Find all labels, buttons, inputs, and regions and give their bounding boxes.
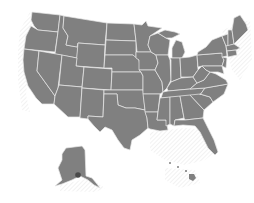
state-montana [63,16,107,47]
state-arizona [54,85,82,117]
us-map-svg [0,0,254,203]
continental-us [23,12,248,155]
state-kansas [111,72,143,90]
alaska-highlight-marker [75,172,81,178]
hawaii-island-maui [185,170,187,172]
us-map: United States map [0,0,254,203]
hawaii-island-kauai [169,162,171,164]
state-new-york [197,36,227,57]
state-new-mexico [80,88,104,119]
hawaii-island-oahu [177,166,179,168]
state-pennsylvania [197,53,224,67]
state-arkansas [143,94,160,112]
state-michigan-lower [172,40,185,58]
state-north-dakota [106,23,136,41]
state-colorado [82,67,112,90]
state-iowa [136,52,158,70]
state-wyoming [76,43,105,68]
